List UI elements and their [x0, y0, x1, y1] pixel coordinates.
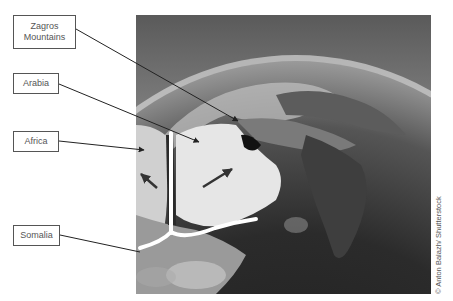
africa-leader-line: [59, 141, 144, 150]
somalia-leader-line: [60, 235, 140, 252]
arabia-leader-line: [59, 84, 199, 142]
africa-motion-arrow: [141, 174, 157, 188]
label-arabia: Arabia: [13, 73, 59, 94]
label-somalia: Somalia: [13, 225, 60, 246]
label-africa-text: Africa: [24, 136, 47, 147]
label-africa: Africa: [13, 131, 59, 152]
label-arabia-text: Arabia: [23, 78, 49, 89]
label-somalia-text: Somalia: [20, 230, 53, 241]
photo-credit: © Anton Balazh/ Shutterstock: [434, 196, 443, 294]
rift-lines: [140, 133, 256, 248]
label-zagros-text: Zagros Mountains: [20, 21, 70, 44]
zagros-leader-line: [76, 29, 238, 121]
arabia-motion-arrow: [203, 169, 232, 187]
label-zagros-mountains: Zagros Mountains: [13, 15, 76, 49]
